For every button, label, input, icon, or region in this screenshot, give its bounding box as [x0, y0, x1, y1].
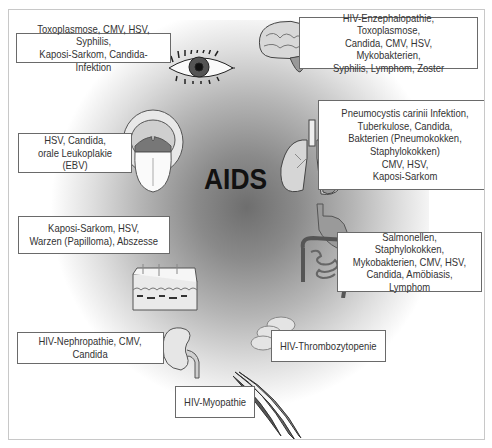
skin-diseases-box: Kaposi-Sarkom, HSV, Warzen (Papilloma), … [18, 216, 170, 254]
muscle-diseases-box: HIV-Myopathie [175, 386, 255, 418]
kidney-icon [161, 326, 203, 382]
eye-icon [165, 50, 237, 84]
kidney-diseases-label: HIV-Nephropathie, CMV, Candida [39, 335, 142, 360]
kidney-diseases-box: HIV-Nephropathie, CMV, Candida [17, 332, 164, 364]
skin-icon [129, 264, 201, 314]
mouth-diseases-label: HSV, Candida, orale Leukoplakie (EBV) [27, 134, 123, 172]
center-label: AIDS [204, 162, 267, 196]
eye-diseases-label: Toxoplasmose, CMV, HSV, Syphilis, Kaposi… [28, 23, 160, 73]
brain-diseases-label: HIV-Enzephalopathie, Toxoplasmose, Candi… [312, 12, 464, 75]
intestine-diseases-label: Salmonellen, Staphylokokken, Mykobakteri… [348, 231, 471, 294]
mouth-diseases-box: HSV, Candida, orale Leukoplakie (EBV) [18, 133, 132, 173]
platelets-diseases-label: HIV-Thrombozytopenie [280, 340, 377, 353]
skin-diseases-label: Kaposi-Sarkom, HSV, Warzen (Papilloma), … [30, 222, 158, 247]
intestine-diseases-box: Salmonellen, Staphylokokken, Mykobakteri… [337, 232, 482, 292]
platelets-diseases-box: HIV-Thrombozytopenie [271, 330, 386, 362]
brain-diseases-box: HIV-Enzephalopathie, Toxoplasmose, Candi… [299, 17, 478, 69]
eye-diseases-box: Toxoplasmose, CMV, HSV, Syphilis, Kaposi… [16, 33, 171, 63]
diagram-frame: AIDS Toxoplasmose, CMV, HSV, Syphilis, K… [8, 9, 485, 440]
lungs-diseases-box: Pneumocystis carinii Infektion, Tuberkul… [318, 100, 485, 190]
lungs-diseases-label: Pneumocystis carinii Infektion, Tuberkul… [341, 107, 468, 183]
muscle-diseases-label: HIV-Myopathie [184, 396, 246, 409]
